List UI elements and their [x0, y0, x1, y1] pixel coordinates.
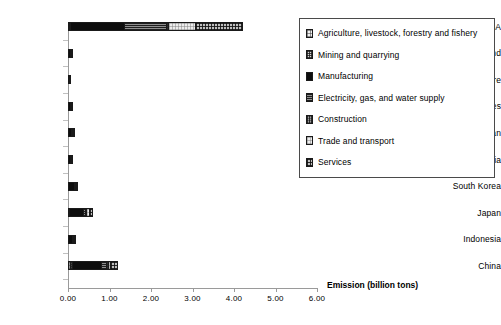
legend-item-2[interactable]: Mining and quarrying — [306, 49, 399, 61]
bar-segment — [74, 235, 76, 244]
bar-segment — [89, 208, 93, 217]
bar-segment — [70, 22, 124, 31]
legend-item-4[interactable]: Electricity, gas, and water supply — [306, 92, 445, 104]
y-axis-label-japan: Japan — [439, 208, 501, 218]
x-axis-tick-label: 3.00 — [173, 294, 213, 303]
legend-swatch-icon — [306, 115, 313, 124]
legend-label: Electricity, gas, and water supply — [318, 93, 445, 103]
bar-segment — [71, 49, 73, 58]
bar-segment — [195, 22, 243, 31]
legend-item-6[interactable]: Trade and transport — [306, 135, 394, 147]
bar-indonesia — [68, 235, 74, 244]
legend-swatch-icon — [306, 93, 313, 102]
bar-usa — [68, 22, 243, 31]
emission-stacked-bar-chart: USAThailandSingaporePhilippinesTaiwanMal… — [0, 0, 501, 325]
legend-swatch-icon — [306, 158, 313, 167]
x-axis-tick — [234, 288, 235, 292]
legend-label: Mining and quarrying — [318, 50, 399, 60]
legend-label: Manufacturing — [318, 71, 373, 81]
x-axis-tick — [68, 288, 69, 292]
legend-swatch-icon — [306, 136, 313, 145]
x-axis-tick — [317, 288, 318, 292]
x-axis-tick-label: 6.00 — [297, 294, 337, 303]
bar-segment — [71, 155, 73, 164]
bar-japan — [68, 208, 93, 217]
bar-segment — [168, 22, 195, 31]
bar-segment — [73, 128, 75, 137]
x-axis-tick — [151, 288, 152, 292]
legend-label: Agriculture, livestock, forestry and fis… — [318, 28, 477, 38]
legend-item-1[interactable]: Agriculture, livestock, forestry and fis… — [306, 27, 477, 39]
x-axis-tick-label: 2.00 — [131, 294, 171, 303]
x-axis-tick-label: 0.00 — [48, 294, 88, 303]
bar-singapore — [68, 75, 69, 84]
x-axis-tick-label: 1.00 — [90, 294, 130, 303]
bar-segment — [69, 208, 83, 217]
legend-item-3[interactable]: Manufacturing — [306, 70, 373, 82]
legend-swatch-icon — [306, 29, 313, 38]
bar-malaysia — [68, 155, 72, 164]
bar-segment — [124, 22, 166, 31]
bar-china — [68, 261, 118, 270]
legend-label: Construction — [318, 114, 367, 124]
legend-label: Trade and transport — [318, 136, 394, 146]
bar-segment — [76, 182, 78, 191]
legend-item-5[interactable]: Construction — [306, 113, 367, 125]
y-axis-label-south-korea: South Korea — [439, 181, 501, 191]
bar-segment — [72, 261, 101, 270]
x-axis-tick — [276, 288, 277, 292]
bar-south-korea — [68, 182, 77, 191]
y-axis-label-indonesia: Indonesia — [439, 234, 501, 244]
x-axis-tick — [110, 288, 111, 292]
bar-thailand — [68, 49, 72, 58]
legend-box: Agriculture, livestock, forestry and fis… — [299, 18, 495, 178]
x-axis-title: Emission (billion tons) — [327, 280, 418, 290]
legend-swatch-icon — [306, 72, 313, 81]
x-axis-tick-label: 5.00 — [256, 294, 296, 303]
legend-item-7[interactable]: Services — [306, 156, 351, 168]
x-axis-tick-label: 4.00 — [214, 294, 254, 303]
bar-philippines — [68, 102, 71, 111]
bar-taiwan — [68, 128, 73, 137]
legend-label: Services — [318, 157, 351, 167]
bar-segment — [69, 75, 71, 84]
y-axis-label-china: China — [439, 261, 501, 271]
x-axis-tick — [193, 288, 194, 292]
bar-segment — [110, 261, 117, 270]
bar-segment — [71, 102, 73, 111]
legend-swatch-icon — [306, 50, 313, 59]
